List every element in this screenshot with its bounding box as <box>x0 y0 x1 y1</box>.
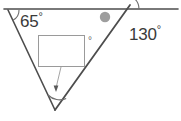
right-angle-value: 130 <box>129 25 157 44</box>
right-angle-label: 130° <box>129 24 161 43</box>
right-angle-degree-symbol: ° <box>157 23 161 35</box>
left-angle-degree-symbol: ° <box>39 10 43 22</box>
leader-arrowhead <box>54 86 59 92</box>
gray-dot-marker <box>100 12 110 22</box>
left-angle-arc <box>13 10 19 20</box>
left-angle-label: 65° <box>20 11 43 30</box>
leader-line <box>56 67 61 88</box>
answer-degree-symbol: ° <box>88 35 92 46</box>
left-angle-value: 65 <box>20 12 39 31</box>
answer-input[interactable] <box>38 35 85 67</box>
